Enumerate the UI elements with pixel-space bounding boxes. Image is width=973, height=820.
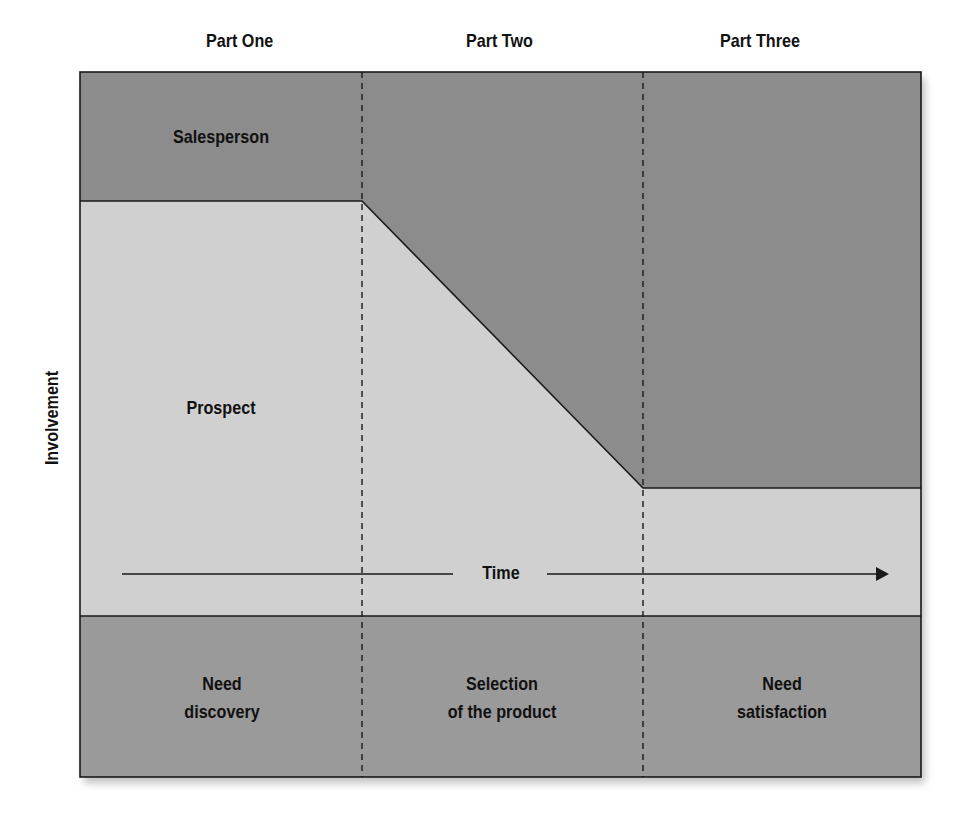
- prospect-label: Prospect: [186, 394, 255, 422]
- phase-1-line-2: discovery: [184, 698, 259, 726]
- phase-need-discovery: Need discovery: [184, 670, 259, 726]
- phase-need-satisfaction: Need satisfaction: [737, 670, 827, 726]
- y-axis-label: Involvement: [41, 371, 63, 465]
- phase-3-line-2: satisfaction: [737, 698, 827, 726]
- salesperson-label: Salesperson: [173, 123, 269, 151]
- phase-1-line-1: Need: [184, 670, 259, 698]
- phase-selection-of-product: Selection of the product: [448, 670, 557, 726]
- phase-2-line-2: of the product: [448, 698, 557, 726]
- phase-2-line-1: Selection: [448, 670, 557, 698]
- time-label: Time: [482, 559, 519, 587]
- phase-3-line-1: Need: [737, 670, 827, 698]
